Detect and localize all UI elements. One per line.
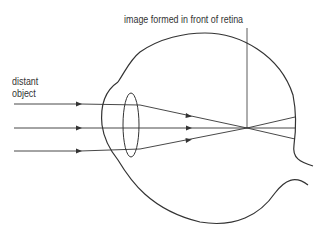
arrow-icon: [76, 102, 82, 107]
arrow-icon: [76, 126, 82, 131]
ray-arrowheads: [76, 102, 192, 154]
ray-top: [14, 104, 295, 128]
lens: [123, 93, 139, 157]
light-rays: [14, 104, 295, 151]
object-label-line2: object: [12, 87, 38, 99]
image-position-label: image formed in front of retina: [124, 13, 243, 25]
ray-bottom: [14, 128, 295, 151]
object-label: distant object: [12, 75, 38, 99]
eyeball-lower-outline: [102, 82, 308, 223]
arrow-icon: [186, 113, 193, 118]
eyeball-outline: [118, 33, 313, 166]
arrow-icon: [76, 149, 82, 154]
object-label-line1: distant: [12, 75, 38, 87]
arrow-icon: [186, 126, 192, 131]
eye-diagram-svg: [0, 0, 324, 237]
